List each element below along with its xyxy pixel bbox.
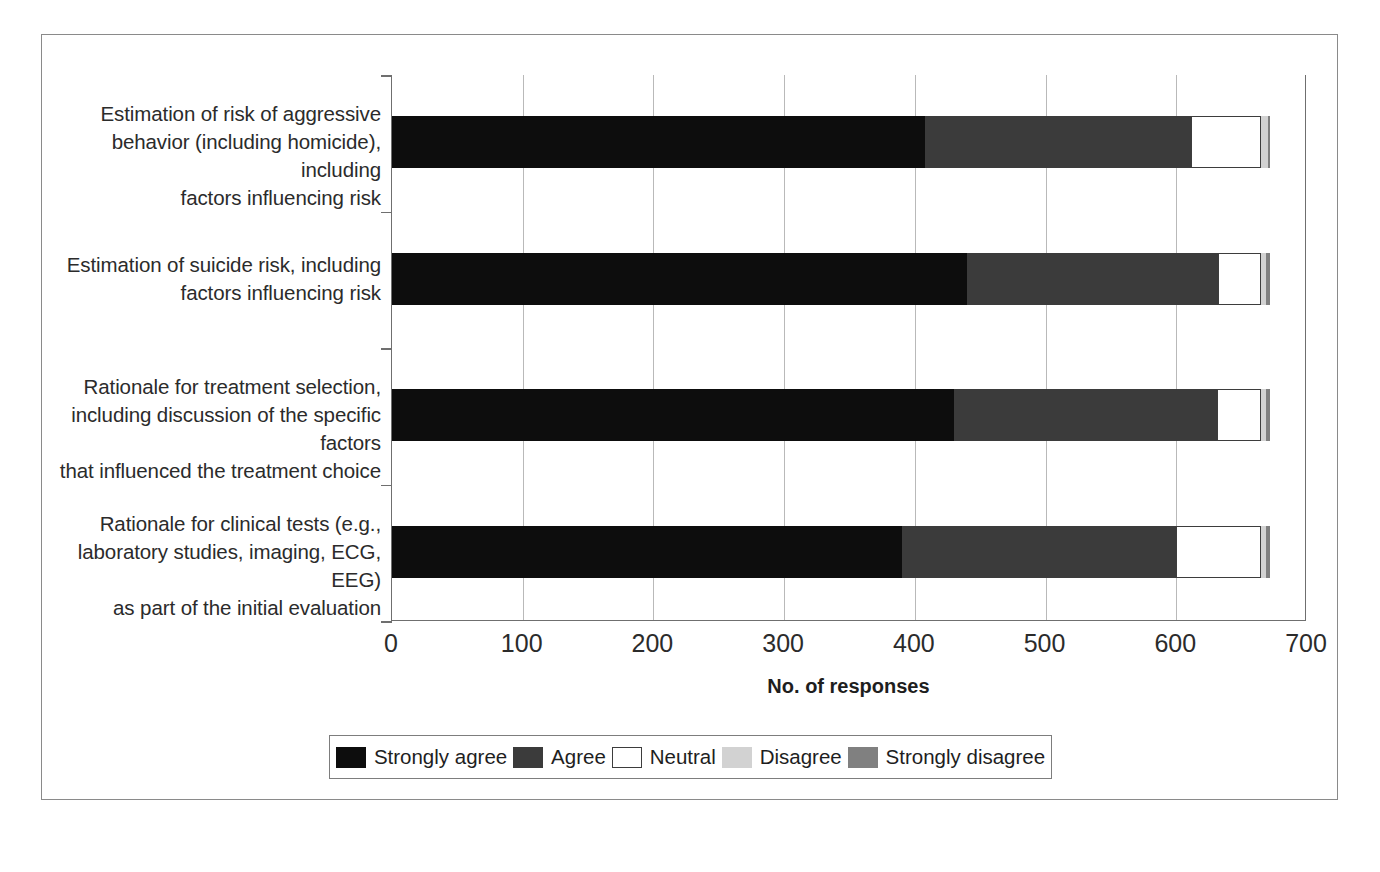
- stacked-bar[interactable]: [392, 389, 1270, 441]
- legend-swatch-strongly-agree: [336, 747, 366, 768]
- category-axis-tick: [381, 75, 392, 77]
- category-axis-tick: [381, 212, 392, 214]
- value-axis-tick-label-200: 200: [632, 629, 674, 658]
- bar-segment-strongly-agree[interactable]: [392, 526, 902, 578]
- bar-segment-strongly-agree[interactable]: [392, 116, 925, 168]
- category-label-line: factors influencing risk: [42, 279, 381, 307]
- bar-segment-strongly-agree[interactable]: [392, 389, 954, 441]
- category-row: [392, 348, 1306, 485]
- legend-swatch-strongly-disagree: [848, 747, 878, 768]
- category-label: Rationale for treatment selection,includ…: [42, 373, 381, 485]
- category-label-line: Estimation of risk of aggressive: [42, 100, 381, 128]
- value-axis-tick-labels: 0100200300400500600700: [391, 629, 1306, 669]
- category-axis-tick: [381, 485, 392, 487]
- category-axis-labels: Estimation of risk of aggressivebehavior…: [42, 75, 381, 621]
- category-label-line: Estimation of suicide risk, including: [42, 251, 381, 279]
- bar-segment-agree[interactable]: [954, 389, 1217, 441]
- bar-segment-agree[interactable]: [967, 253, 1218, 305]
- value-axis-tick-label-300: 300: [762, 629, 804, 658]
- category-label-line: that influenced the treatment choice: [42, 457, 381, 485]
- legend-label: Disagree: [760, 745, 842, 769]
- category-label: Rationale for clinical tests (e.g.,labor…: [42, 510, 381, 622]
- value-axis-tick-label-400: 400: [893, 629, 935, 658]
- category-label-line: factors influencing risk: [42, 184, 381, 212]
- bar-segment-strongly-disagree[interactable]: [1266, 389, 1270, 441]
- legend-item[interactable]: Neutral: [612, 745, 716, 769]
- value-axis-tick-label-500: 500: [1024, 629, 1066, 658]
- legend-item[interactable]: Strongly disagree: [848, 745, 1046, 769]
- stacked-bar[interactable]: [392, 253, 1270, 305]
- bar-segment-neutral[interactable]: [1191, 116, 1262, 168]
- category-label-line: Rationale for clinical tests (e.g.,: [42, 510, 381, 538]
- category-label: Estimation of suicide risk, includingfac…: [42, 251, 381, 307]
- legend-label: Neutral: [650, 745, 716, 769]
- category-label-line: as part of the initial evaluation: [42, 594, 381, 622]
- category-row: [392, 485, 1306, 622]
- plot-area: [391, 75, 1306, 621]
- legend-item[interactable]: Agree: [513, 745, 606, 769]
- chart-legend: Strongly agreeAgreeNeutralDisagreeStrong…: [329, 735, 1052, 779]
- bar-segment-strongly-disagree[interactable]: [1266, 526, 1270, 578]
- legend-swatch-neutral: [612, 747, 642, 768]
- legend-label: Strongly agree: [374, 745, 507, 769]
- legend-item[interactable]: Disagree: [722, 745, 842, 769]
- category-label: Estimation of risk of aggressivebehavior…: [42, 100, 381, 212]
- chart-region: Estimation of risk of aggressivebehavior…: [42, 35, 1339, 695]
- legend-label: Agree: [551, 745, 606, 769]
- bar-segment-agree[interactable]: [902, 526, 1177, 578]
- value-axis-title: No. of responses: [391, 675, 1306, 698]
- category-label-line: including discussion of the specific fac…: [42, 401, 381, 457]
- category-row: [392, 75, 1306, 212]
- category-label-line: Rationale for treatment selection,: [42, 373, 381, 401]
- bar-segment-agree[interactable]: [925, 116, 1190, 168]
- legend-label: Strongly disagree: [886, 745, 1046, 769]
- value-axis-tick-label-600: 600: [1154, 629, 1196, 658]
- category-row: [392, 212, 1306, 349]
- bar-segment-neutral[interactable]: [1217, 389, 1261, 441]
- legend-swatch-agree: [513, 747, 543, 768]
- bar-segment-strongly-agree[interactable]: [392, 253, 967, 305]
- bar-segment-strongly-disagree[interactable]: [1266, 253, 1270, 305]
- stacked-bar[interactable]: [392, 116, 1270, 168]
- bar-segment-strongly-disagree[interactable]: [1268, 116, 1271, 168]
- value-axis-tick-label-100: 100: [501, 629, 543, 658]
- value-axis-tick-label-0: 0: [384, 629, 398, 658]
- bar-segment-neutral[interactable]: [1218, 253, 1261, 305]
- legend-item[interactable]: Strongly agree: [336, 745, 507, 769]
- legend-swatch-disagree: [722, 747, 752, 768]
- bar-segment-neutral[interactable]: [1176, 526, 1261, 578]
- value-axis-tick-label-700: 700: [1285, 629, 1327, 658]
- category-label-line: laboratory studies, imaging, ECG, EEG): [42, 538, 381, 594]
- category-axis-tick: [381, 348, 392, 350]
- category-label-line: behavior (including homicide), including: [42, 128, 381, 184]
- figure-frame: Estimation of risk of aggressivebehavior…: [41, 34, 1338, 800]
- category-axis-tick: [381, 621, 392, 623]
- stacked-bar[interactable]: [392, 526, 1270, 578]
